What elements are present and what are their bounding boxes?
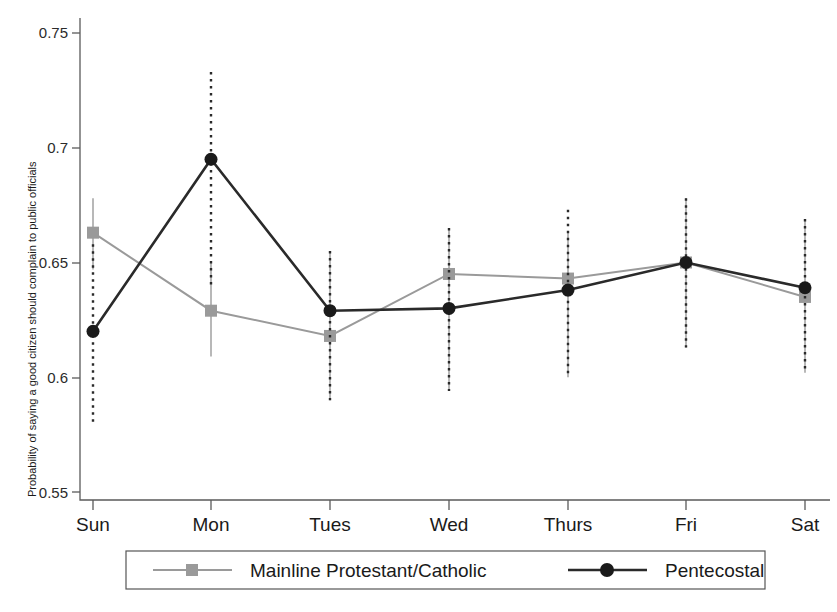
data-point-circle [87, 325, 100, 338]
data-point-square [205, 305, 217, 317]
x-tick-label-fri: Fri [675, 514, 697, 535]
x-tick-label-mon: Mon [193, 514, 230, 535]
y-tick-label-0.65: 0.65 [39, 254, 68, 271]
plot-series-layer [87, 72, 812, 423]
legend-entry-mainline: Mainline Protestant/Catholic [153, 560, 487, 581]
x-tick-label-tues: Tues [309, 514, 351, 535]
data-point-square [87, 227, 99, 239]
legend-label-pentecostal: Pentecostal [665, 560, 764, 581]
data-point-circle [799, 281, 812, 294]
x-tick-label-thurs: Thurs [544, 514, 593, 535]
line-chart: Probability of saying a good citizen sho… [0, 0, 837, 612]
x-axis-ticks [93, 500, 805, 510]
data-point-circle [324, 304, 337, 317]
legend-entry-pentecostal: Pentecostal [568, 560, 764, 581]
data-point-circle [205, 153, 218, 166]
x-tick-label-wed: Wed [430, 514, 469, 535]
x-tick-label-sat: Sat [791, 514, 820, 535]
axis-frame [80, 18, 830, 500]
y-tick-label-0.6: 0.6 [47, 369, 68, 386]
circle-marker [600, 563, 614, 577]
y-axis-title: Probability of saying a good citizen sho… [26, 161, 38, 497]
y-axis-ticks [72, 33, 80, 492]
legend-label-mainline: Mainline Protestant/Catholic [250, 560, 487, 581]
data-point-circle [680, 256, 693, 269]
y-tick-label-0.75: 0.75 [39, 24, 68, 41]
x-tick-label-sun: Sun [76, 514, 110, 535]
data-point-circle [443, 302, 456, 315]
data-point-circle [562, 284, 575, 297]
y-tick-label-0.55: 0.55 [39, 484, 68, 501]
square-marker [186, 564, 198, 576]
chart-page: Probability of saying a good citizen sho… [0, 0, 837, 612]
y-tick-label-0.7: 0.7 [47, 139, 68, 156]
